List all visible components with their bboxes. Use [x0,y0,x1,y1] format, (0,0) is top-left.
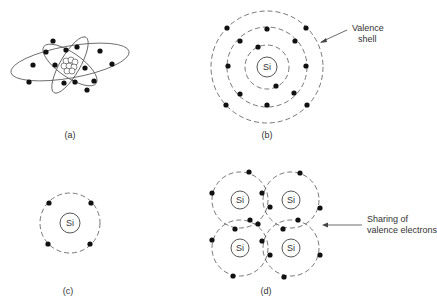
si-label-d4: Si [287,243,295,253]
panel-c-valence-model: Si [40,193,100,253]
si-label-c: Si [66,218,74,228]
si-label-d2: Si [287,195,295,205]
panel-a-atom-model [8,32,132,97]
valence-annotation-line1: Valence [352,23,384,33]
si-label-d3: Si [236,243,244,253]
panel-b-shell-model: Si [211,11,347,123]
sharing-annotation-line1: Sharing of [367,214,409,224]
panel-d-label: (d) [261,286,272,296]
panel-b-label: (b) [262,130,273,140]
panel-d-covalent-bonding: Si Si Si Si [209,169,362,279]
si-label: Si [263,62,271,72]
nucleus-icon [61,57,78,74]
si-label-d1: Si [236,195,244,205]
panel-c-label: (c) [63,286,74,296]
sharing-annotation-line2: valence electrons [367,225,437,235]
panel-a-label: (a) [65,130,76,140]
valence-annotation-line2: shell [358,34,377,44]
